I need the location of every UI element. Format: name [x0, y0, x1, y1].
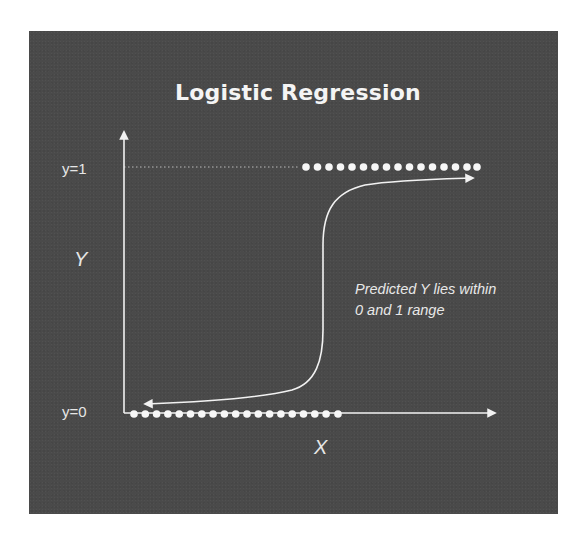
logistic-plot [0, 0, 586, 549]
points-y0 [130, 410, 342, 418]
y-tick-label-1: y=1 [62, 160, 87, 177]
annotation-line-2: 0 and 1 range [355, 300, 496, 321]
x-axis-label: X [314, 436, 327, 459]
y-tick-label-0: y=0 [62, 403, 87, 420]
annotation-text: Predicted Y lies within 0 and 1 range [355, 279, 496, 321]
points-y1 [302, 163, 481, 171]
annotation-line-1: Predicted Y lies within [355, 279, 496, 300]
y-axis-label: Y [74, 248, 87, 271]
